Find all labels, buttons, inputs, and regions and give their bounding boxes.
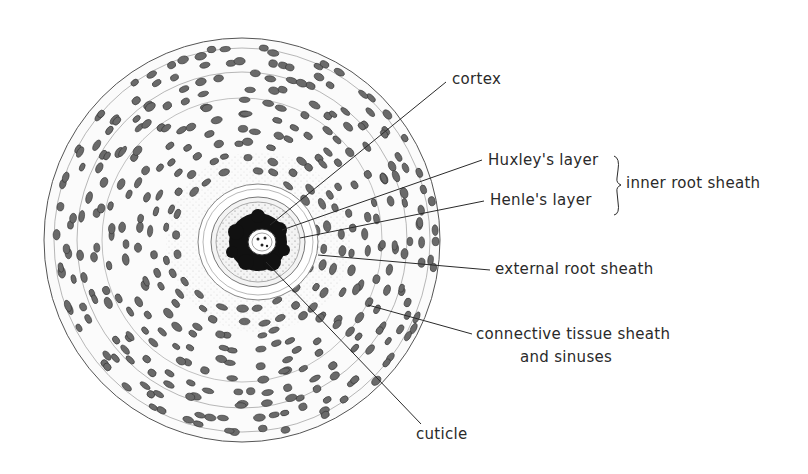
label-cortex: cortex xyxy=(452,71,501,88)
brace xyxy=(614,156,621,215)
label-huxleys-layer: Huxley's layer xyxy=(488,152,598,169)
label-henles-layer: Henle's layer xyxy=(490,192,592,209)
label-external-root-sheath: external root sheath xyxy=(495,261,653,278)
hair-follicle-diagram xyxy=(0,0,808,474)
label-cuticle: cuticle xyxy=(416,426,468,443)
label-connective-tissue-sheath: connective tissue sheath xyxy=(476,326,670,343)
medulla xyxy=(248,229,276,255)
label-inner-root-sheath: inner root sheath xyxy=(626,175,760,192)
label-and-sinuses: and sinuses xyxy=(520,349,612,366)
